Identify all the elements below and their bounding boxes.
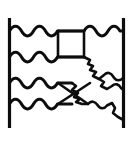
line-drawing-figure bbox=[0, 0, 134, 159]
figure-container: line-drawing figure Monochrome line draw… bbox=[0, 0, 134, 159]
